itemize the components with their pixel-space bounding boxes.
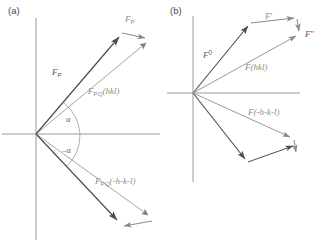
panel-a-label: (a) bbox=[8, 5, 20, 16]
label-f-pq-hkl: FPQ(hkl) bbox=[87, 86, 119, 97]
label-f-p-top: FP bbox=[124, 14, 135, 25]
vector-f-pq-minus-hkl bbox=[36, 134, 148, 215]
label-f-pq-minus-hkl: FPQ(-h-k-l) bbox=[94, 176, 135, 187]
label-f-p-upper: FP bbox=[51, 67, 62, 78]
vector-f-p-lower bbox=[36, 134, 117, 220]
vector-f-double-prime bbox=[297, 19, 299, 31]
vector-f-double-prime-lower bbox=[294, 140, 296, 152]
panel-b: (b) F0 F′ F″ F(hkl) bbox=[167, 5, 315, 182]
vector-f-pq-minus-closing bbox=[124, 221, 152, 226]
panel-a: (a) α –α FP FP FPQ(hkl) F bbox=[2, 5, 160, 240]
label-f-hkl: F(hkl) bbox=[244, 62, 268, 72]
panel-b-label: (b) bbox=[170, 5, 182, 16]
label-f-minus-hkl: F(-h-k-l) bbox=[247, 107, 279, 117]
vector-f-prime-lower bbox=[248, 146, 293, 162]
vector-f-p-top-connector bbox=[122, 33, 145, 38]
vector-f-zero bbox=[193, 26, 248, 93]
vector-f-prime bbox=[251, 18, 294, 23]
label-f-prime: F′ bbox=[264, 11, 273, 21]
panel-a-alpha-label: α bbox=[66, 114, 71, 124]
label-f-zero: F0 bbox=[202, 49, 213, 60]
vector-f-zero-lower bbox=[193, 93, 245, 159]
vector-diagram-figure: (a) α –α FP FP FPQ(hkl) F bbox=[0, 0, 328, 246]
label-f-double-prime: F″ bbox=[304, 29, 315, 39]
